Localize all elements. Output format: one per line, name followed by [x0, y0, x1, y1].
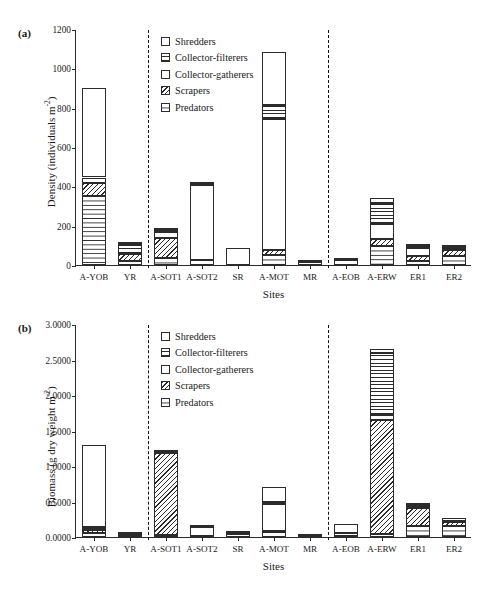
legend-label-filterers: Collector-filterers [175, 347, 248, 358]
panel-0-y-tick-mark [72, 69, 76, 70]
bar-segment-a-mot-scrapers [262, 250, 286, 256]
x-tick-label-sr: SR [232, 544, 243, 554]
legend-label-filterers: Collector-filterers [175, 52, 248, 63]
panel-1-y-tick-mark [72, 361, 76, 362]
bar-a-sot1 [154, 228, 178, 265]
bar-segment-a-eob-collector-gatherers [334, 260, 358, 266]
bar-segment-a-yob-shredders [82, 88, 106, 177]
legend-swatch-shredders-icon [161, 332, 170, 341]
panel-0-y-tick-mark [72, 109, 76, 110]
bar-segment-a-mot-collector-gatherers [262, 504, 286, 531]
panel-1-y-tick-mark [72, 396, 76, 397]
panel-0-y-tick-mark [72, 266, 76, 267]
bar-segment-er1-predators [406, 526, 430, 537]
bar-segment-a-sot1-scrapers [154, 453, 178, 535]
bar-a-erw [370, 198, 394, 265]
bar-segment-er1-scrapers [406, 508, 430, 526]
x-tick-label-a-yob: A-YOB [80, 272, 109, 282]
legend-item-shredders: Shredders [161, 328, 253, 345]
bar-segment-a-sot2-shredders [190, 525, 214, 527]
bar-segment-er1-collector-filterers [406, 246, 430, 248]
legend-item-scrapers: Scrapers [161, 83, 253, 100]
legend-swatch-gatherers-icon [161, 365, 170, 374]
bar-a-sot2 [190, 182, 214, 265]
panel-0-y-tick-mark [72, 187, 76, 188]
x-tick-label-yr: YR [124, 272, 137, 282]
bar-segment-a-sot1-shredders [154, 450, 178, 452]
bar-segment-a-yob-scrapers [82, 530, 106, 533]
x-tick-label-a-eob: A-EOB [332, 544, 360, 554]
legend-item-scrapers: Scrapers [161, 378, 253, 395]
panel-1-x-tick-mark [274, 537, 275, 541]
bar-segment-a-yob-collector-gatherers [82, 178, 106, 184]
x-tick-label-yr: YR [124, 544, 137, 554]
bar-segment-a-mot-predators [262, 532, 286, 537]
bar-sr [226, 532, 250, 537]
bar-segment-a-eob-collector-gatherers [334, 533, 358, 535]
x-tick-label-er2: ER2 [446, 544, 462, 554]
x-tick-label-a-sot1: A-SOT1 [150, 544, 181, 554]
legend-swatch-scrapers-icon [161, 381, 170, 390]
panel-0-x-tick-mark [382, 265, 383, 269]
x-tick-label-mr: MR [303, 272, 317, 282]
bar-a-sot1 [154, 451, 178, 537]
panel-b-y-axis-label-tail: ) [45, 386, 57, 390]
bar-segment-a-erw-collector-gatherers [370, 224, 394, 240]
bar-segment-er1-shredders [406, 244, 430, 246]
bar-segment-er2-scrapers [442, 250, 466, 256]
legend-label-shredders: Shredders [175, 331, 216, 342]
panel-1-x-tick-mark [202, 537, 203, 541]
bar-segment-a-yob-collector-filterers [82, 527, 106, 529]
bar-segment-a-yob-scrapers [82, 183, 106, 196]
bar-segment-sr-predators [226, 534, 250, 537]
bar-segment-a-sot2-shredders [190, 182, 214, 184]
bar-a-mot [262, 487, 286, 537]
bar-segment-yr-predators [118, 261, 142, 265]
bar-segment-mr-collector-gatherers [298, 534, 322, 536]
legend-label-shredders: Shredders [175, 36, 216, 47]
group-separator-after-mr [328, 30, 329, 268]
legend-label-predators: Predators [175, 397, 213, 408]
x-tick-label-er1: ER1 [410, 544, 426, 554]
legend-label-scrapers: Scrapers [175, 85, 210, 96]
panel-a-density: (a) Density (individuals m-2) 0200400600… [0, 0, 487, 300]
panel-a-tag: (a) [18, 27, 31, 39]
group-separator-after-yr [148, 30, 149, 268]
panel-b-y-axis-label: Biomass (g dry weight m-2) [43, 347, 57, 547]
bar-segment-a-erw-collector-filterers [370, 353, 394, 415]
legend-label-predators: Predators [175, 102, 213, 113]
panel-1-x-tick-mark [310, 537, 311, 541]
bar-mr [298, 262, 322, 265]
panel-1-y-tick-mark [72, 432, 76, 433]
bar-segment-sr-collector-filterers [226, 531, 250, 533]
panel-0-legend: ShreddersCollector-filterersCollector-ga… [161, 33, 253, 116]
panel-0-x-tick-mark [418, 265, 419, 269]
group-separator-after-yr [148, 325, 149, 540]
bar-segment-a-erw-collector-gatherers [370, 415, 394, 419]
bar-segment-a-sot2-collector-gatherers [190, 185, 214, 259]
panel-a-y-axis-label-text: Density (individuals m [45, 106, 57, 207]
bar-segment-a-sot1-predators [154, 535, 178, 537]
panel-a-plot-area: 020040060080010001200A-YOBYRA-SOT1A-SOT2… [75, 30, 471, 266]
legend-item-predators: Predators [161, 394, 253, 411]
bar-segment-a-yob-predators [82, 196, 106, 265]
legend-item-filterers: Collector-filterers [161, 345, 253, 362]
legend-item-gatherers: Collector-gatherers [161, 66, 253, 83]
bar-segment-a-sot1-shredders [154, 228, 178, 231]
bar-segment-a-erw-predators [370, 534, 394, 537]
legend-swatch-filterers-icon [161, 348, 170, 357]
bar-segment-a-erw-predators [370, 246, 394, 265]
bar-segment-yr-shredders [118, 242, 142, 244]
bar-segment-er1-shredders [406, 503, 430, 505]
bar-segment-a-erw-scrapers [370, 239, 394, 246]
panel-1-x-axis-label: Sites [76, 560, 471, 572]
panel-0-x-tick-mark [454, 265, 455, 269]
x-tick-label-a-erw: A-ERW [367, 272, 396, 282]
bar-segment-er1-collector-gatherers [406, 248, 430, 257]
bar-a-yob [82, 88, 106, 265]
bar-a-yob [82, 445, 106, 537]
legend-label-scrapers: Scrapers [175, 380, 210, 391]
legend-label-gatherers: Collector-gatherers [175, 69, 253, 80]
bar-a-mot [262, 52, 286, 265]
bar-a-sot2 [190, 526, 214, 537]
